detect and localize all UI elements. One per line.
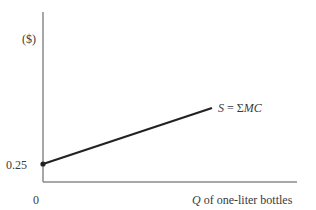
chart-canvas [0,0,316,210]
x-axis-label-rest: of one-liter bottles [201,193,293,207]
y-axis-label: ($) [22,32,36,46]
supply-curve-label: S = ΣMC [218,101,262,115]
supply-curve [43,108,212,164]
origin-label: 0 [33,193,39,207]
intercept-dot [40,161,45,166]
y-tick-label: 0.25 [6,158,27,172]
mc-symbol: MC [244,101,262,115]
equals-sigma: = Σ [224,101,244,115]
x-axis-label: Q of one-liter bottles [192,193,292,207]
quantity-symbol: Q [192,193,201,207]
